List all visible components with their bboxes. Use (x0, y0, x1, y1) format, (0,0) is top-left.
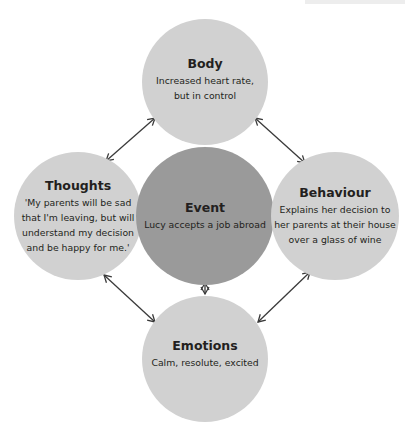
node-behaviour-title: Behaviour (299, 185, 370, 201)
arrow-body-thoughts (106, 118, 155, 161)
node-thoughts-line: that I'm leaving, but will (22, 210, 135, 225)
node-body-line: but in control (174, 88, 236, 103)
node-behaviour: Behaviour Explains her decision to her p… (271, 152, 399, 280)
node-thoughts: Thoughts 'My parents will be sad that I'… (14, 152, 142, 280)
node-body-title: Body (187, 56, 222, 72)
node-thoughts-line: and be happy for me.' (27, 240, 130, 255)
arrow-behaviour-emotions (258, 272, 310, 322)
node-thoughts-line: 'My parents will be sad (25, 195, 132, 210)
node-thoughts-title: Thoughts (45, 178, 111, 194)
node-event-title: Event (185, 200, 225, 216)
arrow-thoughts-emotions (104, 275, 155, 322)
node-body-line: Increased heart rate, (156, 73, 254, 88)
node-emotions-title: Emotions (172, 338, 237, 354)
node-body: Body Increased heart rate, but in contro… (142, 19, 268, 145)
node-event: Event Lucy accepts a job abroad (136, 147, 274, 285)
node-event-line: Lucy accepts a job abroad (144, 217, 266, 232)
node-emotions-line: Calm, resolute, excited (151, 355, 258, 370)
node-behaviour-line: her parents at their house (274, 217, 396, 232)
node-behaviour-line: Explains her decision to (280, 202, 391, 217)
arrow-body-behaviour (255, 118, 305, 163)
node-thoughts-line: understand my decision (22, 225, 134, 240)
node-emotions: Emotions Calm, resolute, excited (142, 296, 268, 422)
node-behaviour-line: over a glass of wine (289, 232, 382, 247)
